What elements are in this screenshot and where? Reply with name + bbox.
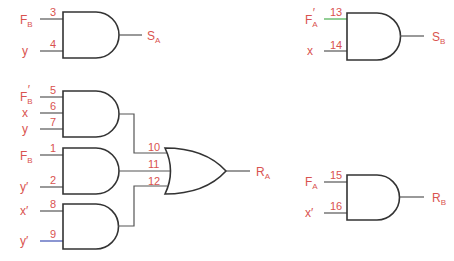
and-gate-sb: FA′ x 13 14 SB	[305, 6, 445, 60]
pin-number: 13	[330, 6, 342, 18]
or-gate-body	[165, 148, 226, 194]
and-gate-body	[63, 148, 119, 194]
pin-number: 16	[330, 200, 342, 212]
and-gate-body	[63, 12, 119, 58]
input-label-y-prime: y′	[20, 234, 29, 248]
pin-number: 4	[50, 38, 56, 50]
input-label-fa-prime: FA′	[305, 6, 318, 29]
pin-number: 3	[50, 6, 56, 18]
output-label-ra: RA	[256, 165, 271, 181]
pin-number: 6	[50, 100, 56, 112]
pin-number: 2	[50, 174, 56, 186]
input-label-x: x	[307, 44, 313, 58]
and-gate-3: x′ y′ 8 9	[20, 198, 119, 249]
input-label-fb: FB	[20, 149, 33, 165]
pin-number: 14	[330, 39, 342, 51]
and-gate-body	[63, 91, 119, 137]
input-label-fb-prime: FB′	[20, 83, 33, 106]
pin-number: 9	[50, 228, 56, 240]
output-label-sb: SB	[432, 30, 445, 46]
logic-circuit-diagram: FB y 3 4 SA FA′ x 13 14 SB FB′ x y 5 6 7…	[0, 0, 454, 261]
and-gate-1: FB′ x y 5 6 7	[20, 83, 119, 137]
input-label-x-prime: x′	[20, 204, 29, 218]
pin-number: 10	[148, 141, 160, 153]
and-gate-sa: FB y 3 4 SA	[20, 6, 161, 58]
pin-number: 7	[50, 116, 56, 128]
pin-number: 11	[148, 158, 159, 170]
input-label-x: x	[22, 106, 28, 120]
input-label-fa: FA	[305, 175, 318, 191]
and-gate-body	[347, 13, 401, 60]
pin-number: 1	[50, 142, 56, 154]
and-gate-2: FB y′ 1 2	[20, 142, 119, 194]
input-label-y: y	[22, 122, 28, 136]
pin-number: 12	[148, 175, 160, 187]
wire-pin-12	[118, 186, 167, 226]
output-label-rb: RB	[432, 191, 446, 207]
pin-number: 15	[330, 169, 342, 181]
and-gate-body	[63, 204, 119, 249]
input-label-y: y	[22, 44, 28, 58]
and-gate-body	[347, 175, 399, 220]
input-label-fb: FB	[20, 13, 33, 29]
and-gate-rb: FA x′ 15 16 RB	[305, 169, 446, 220]
pin-number: 8	[50, 198, 56, 210]
input-label-y-prime: y′	[20, 180, 29, 194]
output-label-sa: SA	[147, 29, 161, 45]
pin-number: 5	[50, 84, 56, 96]
input-label-x-prime: x′	[305, 206, 314, 220]
